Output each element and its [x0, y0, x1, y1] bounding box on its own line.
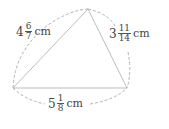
bottom-fraction: 1 8 [57, 94, 65, 113]
left-denominator: 7 [25, 32, 33, 41]
triangle-diagram [0, 0, 169, 129]
bottom-unit: cm [66, 97, 83, 110]
bottom-whole: 5 [48, 97, 56, 111]
bottom-denominator: 8 [57, 104, 65, 113]
right-fraction: 11 14 [118, 24, 131, 43]
right-unit: cm [133, 27, 150, 40]
left-side-label: 4 6 7 cm [16, 22, 51, 41]
bottom-side-label: 5 1 8 cm [48, 94, 83, 113]
right-whole: 3 [109, 27, 117, 41]
right-side-label: 3 11 14 cm [109, 24, 150, 43]
left-whole: 4 [16, 25, 24, 39]
right-denominator: 14 [118, 34, 131, 43]
left-unit: cm [34, 25, 51, 38]
left-fraction: 6 7 [25, 22, 33, 41]
